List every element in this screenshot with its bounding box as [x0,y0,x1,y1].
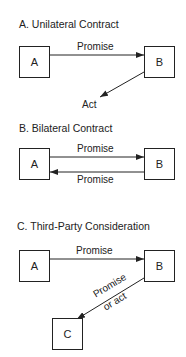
section-c-title: C. Third-Party Consideration [17,220,150,232]
section-a-title: A. Unilateral Contract [19,18,119,30]
edge-label-promise: Promise [76,245,113,256]
edge-label-act: Act [82,99,96,110]
edge-label-promise: Promise [77,41,114,52]
node-b: B [144,46,175,78]
arrow-b-to-act [100,72,144,97]
edge-label-promise: Promise [77,143,114,154]
node-c: C [52,318,83,350]
node-b: B [144,148,175,180]
node-a: A [19,46,50,78]
edge-label-promise: Promise [77,174,114,185]
section-b-title: B. Bilateral Contract [19,122,112,134]
node-a: A [19,250,50,282]
node-a: A [19,148,50,180]
node-b: B [144,250,175,282]
